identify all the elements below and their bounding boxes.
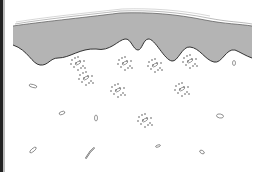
- dermal-cells: [29, 61, 236, 155]
- inflammatory-clusters: [70, 54, 197, 127]
- left-border-bar: [0, 0, 3, 172]
- skin-section-illustration: [0, 0, 271, 172]
- epidermis: [13, 9, 252, 65]
